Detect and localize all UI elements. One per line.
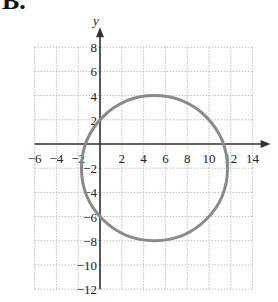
x-tick-label: 4 — [140, 151, 147, 166]
x-tick-label: 2 — [119, 151, 126, 166]
y-axis-arrow-icon — [96, 27, 104, 37]
x-tick-label: 14 — [246, 151, 260, 166]
x-tick-label: 8 — [184, 151, 191, 166]
y-tick-label: 6 — [91, 64, 98, 79]
y-tick-label: −2 — [83, 161, 97, 176]
y-tick-label: −12 — [77, 282, 97, 297]
y-tick-label: −10 — [77, 258, 97, 273]
x-tick-label: −4 — [49, 151, 63, 166]
x-tick-label: 6 — [162, 151, 169, 166]
y-tick-label: −8 — [83, 234, 97, 249]
x-tick-label: −6 — [28, 151, 42, 166]
y-tick-label: 8 — [91, 40, 98, 55]
x-axis-arrow-icon — [261, 140, 271, 148]
y-tick-label: 4 — [91, 89, 98, 104]
x-tick-label: 10 — [203, 151, 216, 166]
y-axis-label: y — [91, 13, 99, 28]
coordinate-plane: y−6−4−224681012148642−2−4−6−8−10−12 — [0, 0, 278, 302]
